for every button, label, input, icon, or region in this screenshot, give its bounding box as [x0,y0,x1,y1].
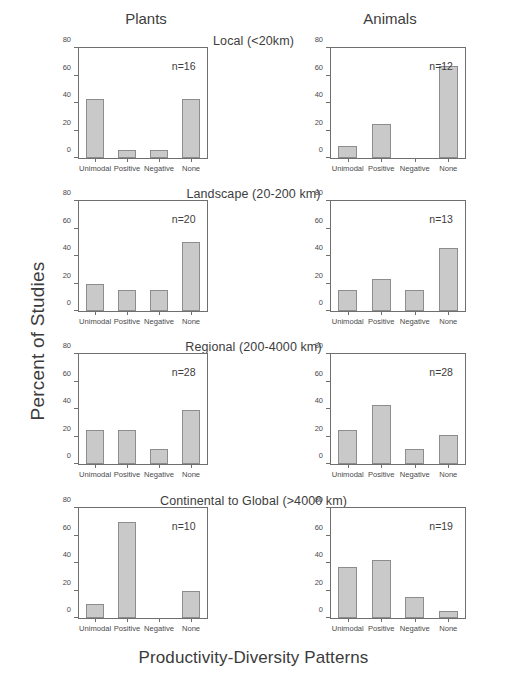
bar-negative [150,449,169,464]
x-tick-mark [381,464,382,468]
chart-panel-plants-continental: 020406080UnimodalPositiveNegativeNonen=1… [36,507,208,641]
y-tick-label: 0 [319,298,323,307]
y-tick-label: 20 [63,577,71,586]
y-tick-label: 80 [315,188,323,197]
x-tick-mark [348,464,349,468]
bar-unimodal [86,284,105,312]
column-header-plants: Plants [86,10,206,27]
y-tick-label: 80 [315,35,323,44]
bar-positive [372,124,391,158]
bar-negative [150,150,169,158]
band-title-regional: Regional (200-4000 km) [0,340,507,354]
y-tick-label: 0 [319,145,323,154]
sample-size-label: n=19 [429,520,453,532]
x-tick-mark [95,311,96,315]
bar-unimodal [338,567,357,618]
x-tick-label-positive: Positive [111,624,143,633]
bar-cell-positive: Positive [111,201,143,311]
y-tick-label: 60 [315,522,323,531]
plot-area: 020406080UnimodalPositiveNegativeNonen=1… [330,507,466,619]
x-tick-label-positive: Positive [111,164,143,173]
y-tick-label: 60 [315,62,323,71]
x-tick-mark [448,618,449,622]
x-tick-mark [191,311,192,315]
y-tick-label: 40 [315,550,323,559]
bar-negative [405,290,424,311]
x-tick-label-positive: Positive [111,317,143,326]
chart-panel-plants-regional: 020406080UnimodalPositiveNegativeNonen=2… [36,353,208,487]
bar-none [439,248,458,311]
bar-cell-unimodal: Unimodal [331,354,365,464]
plot-area: 020406080UnimodalPositiveNegativeNonen=1… [330,47,466,159]
x-tick-mark [159,618,160,622]
y-tick-label: 20 [63,270,71,279]
bar-negative [150,290,169,311]
x-tick-label-none: None [175,164,207,173]
sample-size-label: n=20 [172,213,196,225]
bar-cell-positive: Positive [365,508,399,618]
y-tick-label: 80 [63,35,71,44]
y-tick-label: 40 [63,396,71,405]
x-tick-mark [127,311,128,315]
sample-size-label: n=28 [172,366,196,378]
y-tick-label: 0 [67,451,71,460]
bar-none [182,99,201,158]
bar-cell-unimodal: Unimodal [331,48,365,158]
x-tick-mark [95,464,96,468]
band-title-continental: Continental to Global (>4000 km) [0,494,507,508]
x-tick-mark [348,311,349,315]
bar-none [439,611,458,618]
band-title-local: Local (<20km) [0,34,507,48]
x-tick-mark [191,618,192,622]
sample-size-label: n=10 [172,520,196,532]
x-tick-label-unimodal: Unimodal [79,164,111,173]
x-tick-label-none: None [432,164,466,173]
x-tick-label-negative: Negative [398,624,432,633]
bar-cell-negative: Negative [143,201,175,311]
y-tick-label: 0 [67,298,71,307]
x-tick-mark [127,464,128,468]
bar-unimodal [338,146,357,158]
plot-area: 020406080UnimodalPositiveNegativeNonen=1… [78,47,208,159]
y-tick-label: 20 [315,270,323,279]
bar-cell-negative: Negative [398,48,432,158]
y-tick-label: 40 [63,550,71,559]
y-tick-label: 60 [315,215,323,224]
x-tick-label-positive: Positive [365,624,399,633]
bar-cell-positive: Positive [111,48,143,158]
column-header-animals: Animals [330,10,450,27]
x-tick-mark [381,618,382,622]
bar-unimodal [338,290,357,311]
bar-cell-positive: Positive [111,508,143,618]
chart-panel-animals-local: 020406080UnimodalPositiveNegativeNonen=1… [288,47,466,181]
x-tick-label-unimodal: Unimodal [79,317,111,326]
x-tick-label-negative: Negative [143,470,175,479]
x-tick-label-unimodal: Unimodal [79,470,111,479]
y-tick-label: 60 [63,368,71,377]
bar-cell-negative: Negative [398,508,432,618]
y-tick-label: 0 [67,145,71,154]
bar-cell-unimodal: Unimodal [79,201,111,311]
x-tick-label-negative: Negative [398,317,432,326]
y-tick-label: 60 [315,368,323,377]
x-tick-mark [415,311,416,315]
x-tick-label-positive: Positive [365,164,399,173]
chart-panel-animals-continental: 020406080UnimodalPositiveNegativeNonen=1… [288,507,466,641]
plot-area: 020406080UnimodalPositiveNegativeNonen=2… [330,353,466,465]
x-axis-title: Productivity-Diversity Patterns [0,648,507,668]
band-title-landscape: Landscape (20-200 km) [0,187,507,201]
y-tick-label: 20 [315,423,323,432]
y-tick-label: 0 [67,605,71,614]
x-tick-label-positive: Positive [365,470,399,479]
sample-size-label: n=28 [429,366,453,378]
y-tick-label: 60 [63,522,71,531]
bar-positive [118,290,137,311]
sample-size-label: n=13 [429,213,453,225]
x-tick-mark [159,464,160,468]
x-tick-label-none: None [175,317,207,326]
bar-cell-positive: Positive [365,48,399,158]
y-tick-label: 20 [63,117,71,126]
bar-negative [405,597,424,618]
plot-area: 020406080UnimodalPositiveNegativeNonen=2… [78,353,208,465]
x-tick-mark [191,464,192,468]
